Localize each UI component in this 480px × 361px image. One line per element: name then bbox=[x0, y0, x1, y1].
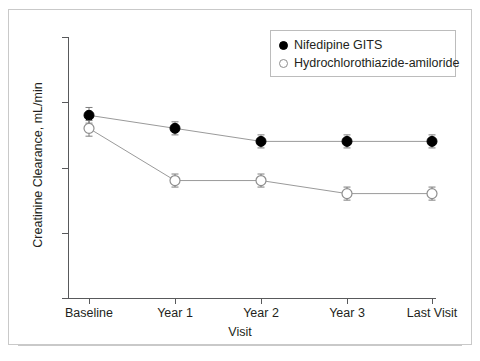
chart-legend: Nifedipine GITS Hydrochlorothiazide-amil… bbox=[270, 30, 456, 77]
legend-item-hydrochlorothiazide-amiloride: Hydrochlorothiazide-amiloride bbox=[279, 54, 447, 72]
legend-item-label: Nifedipine GITS bbox=[294, 39, 382, 52]
data-point-open bbox=[427, 189, 437, 199]
legend-item-label: Hydrochlorothiazide-amiloride bbox=[294, 57, 459, 70]
data-point-open bbox=[342, 189, 352, 199]
filled-circle-icon bbox=[279, 41, 288, 50]
data-point-open bbox=[84, 123, 94, 133]
data-point-open bbox=[256, 176, 266, 186]
data-point-filled bbox=[256, 136, 266, 146]
x-axis-title: Visit bbox=[0, 325, 480, 339]
legend-item-nifedipine-gits: Nifedipine GITS bbox=[279, 36, 447, 54]
data-point-filled bbox=[342, 136, 352, 146]
data-point-filled bbox=[427, 136, 437, 146]
data-point-filled bbox=[84, 110, 94, 120]
open-circle-icon bbox=[279, 59, 288, 68]
y-axis-title: Creatinine Clearance, mL/min bbox=[31, 65, 45, 265]
data-point-filled bbox=[170, 123, 180, 133]
figure: 6065707580 BaselineYear 1Year 2Year 3Las… bbox=[0, 0, 480, 361]
data-point-open bbox=[170, 176, 180, 186]
